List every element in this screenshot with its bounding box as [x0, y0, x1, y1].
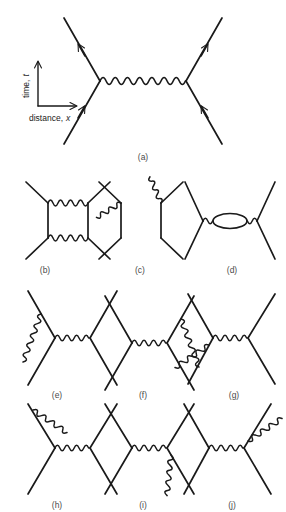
- figure-canvas: time,t distance,x (a): [0, 0, 286, 512]
- axis-label-time: time,t: [21, 74, 31, 98]
- panel-c-diagram: (c): [96, 177, 183, 275]
- panel-a-diagram: (a): [64, 18, 222, 162]
- panel-caption-g: (g): [229, 390, 240, 400]
- panel-caption-c: (c): [135, 265, 145, 275]
- feynman-diagram-figure: time,t distance,x (a): [0, 0, 286, 512]
- panel-j-diagram: (j): [184, 404, 282, 510]
- panel-d-diagram: (d): [185, 182, 275, 275]
- panel-caption-d: (d): [227, 265, 238, 275]
- panel-caption-f: (f): [139, 390, 147, 400]
- panel-caption-j: (j): [228, 500, 236, 510]
- panel-caption-i: (i): [139, 500, 147, 510]
- panel-e-diagram: (e): [23, 291, 117, 400]
- panel-i-diagram: (i): [105, 404, 194, 510]
- panel-b-diagram: (b): [26, 182, 110, 275]
- panel-caption-h: (h): [52, 500, 63, 510]
- axes-indicator: time,t distance,x: [21, 62, 76, 123]
- axis-label-distance: distance,x: [29, 113, 71, 123]
- panel-caption-a: (a): [138, 152, 149, 162]
- panel-f-diagram: (f): [105, 296, 199, 400]
- panel-h-diagram: (h): [28, 401, 117, 510]
- panel-caption-e: (e): [52, 390, 63, 400]
- panel-caption-b: (b): [40, 265, 51, 275]
